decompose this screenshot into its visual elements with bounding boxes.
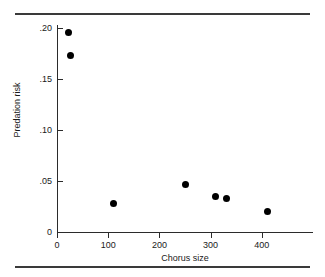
x-axis-line bbox=[57, 232, 313, 233]
figure: 0.05.10.15.20 0100200300400 Chorus size … bbox=[0, 0, 325, 277]
x-tick-label: 300 bbox=[196, 240, 226, 250]
scatter-plot: 0.05.10.15.20 0100200300400 Chorus size … bbox=[0, 0, 325, 277]
y-tick-mark bbox=[58, 130, 63, 131]
y-tick-label: .10 bbox=[26, 125, 52, 135]
y-axis-line bbox=[57, 25, 58, 233]
data-point bbox=[223, 195, 230, 202]
y-tick-label: .05 bbox=[26, 176, 52, 186]
x-tick-label: 400 bbox=[247, 240, 277, 250]
data-point bbox=[182, 181, 189, 188]
x-tick-label: 200 bbox=[144, 240, 174, 250]
data-point bbox=[67, 52, 74, 59]
y-tick-mark bbox=[58, 232, 63, 233]
y-tick-mark bbox=[58, 79, 63, 80]
y-axis-title: Predation risk bbox=[12, 65, 22, 155]
x-tick-label: 100 bbox=[93, 240, 123, 250]
data-point bbox=[264, 208, 271, 215]
y-tick-mark bbox=[58, 181, 63, 182]
y-tick-label: .15 bbox=[26, 74, 52, 84]
x-tick-mark bbox=[262, 233, 263, 238]
data-point bbox=[212, 193, 219, 200]
x-tick-mark bbox=[159, 233, 160, 238]
y-tick-mark bbox=[58, 28, 63, 29]
y-tick-label: 0 bbox=[26, 227, 52, 237]
y-tick-label: .20 bbox=[26, 23, 52, 33]
x-tick-mark bbox=[108, 233, 109, 238]
x-tick-label: 0 bbox=[42, 240, 72, 250]
data-point bbox=[110, 200, 117, 207]
data-point bbox=[65, 29, 72, 36]
x-axis-title: Chorus size bbox=[57, 253, 313, 263]
x-tick-mark bbox=[211, 233, 212, 238]
x-tick-mark bbox=[57, 233, 58, 238]
